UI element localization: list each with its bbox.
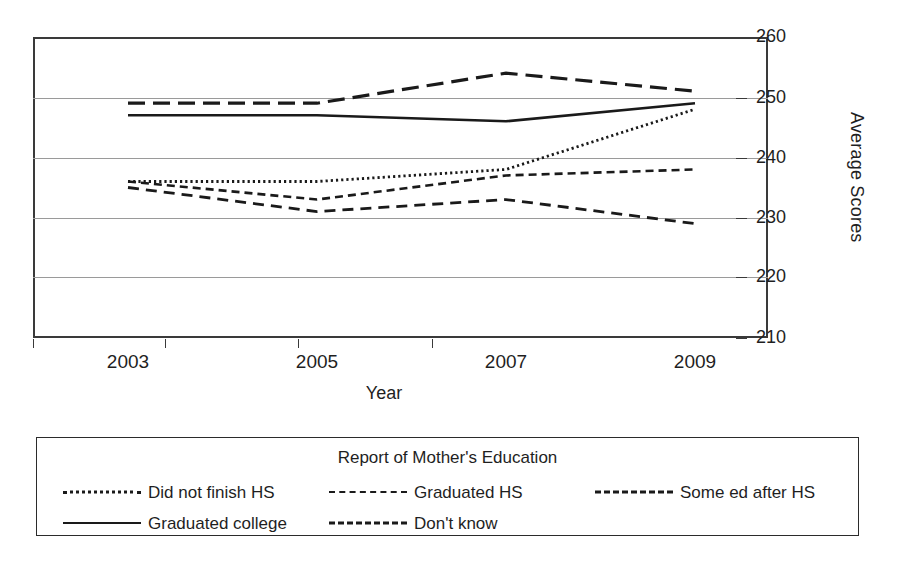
legend-item-did-not-finish-hs[interactable]: Did not finish HS xyxy=(63,479,275,505)
legend-item-graduated-college[interactable]: Graduated college xyxy=(63,510,287,536)
gridline-230 xyxy=(33,218,768,219)
legend-title: Report of Mother's Education xyxy=(37,448,858,468)
y-tick-label-260: 260 xyxy=(756,27,786,45)
gridline-250 xyxy=(33,98,768,99)
plot-area xyxy=(33,37,768,338)
legend: Report of Mother's Education Did not fin… xyxy=(36,437,859,536)
y-tick-label-220: 220 xyxy=(756,267,786,285)
line-chart-figure: 260 250 240 230 220 210 Average Scores 2… xyxy=(0,0,897,562)
y-tick-label-230: 230 xyxy=(756,208,786,226)
legend-label-graduated-hs: Graduated HS xyxy=(414,483,523,502)
y-tick-230 xyxy=(736,218,747,219)
x-tick-2 xyxy=(298,339,299,348)
gridline-240 xyxy=(33,158,768,159)
legend-row-1: Did not finish HS Graduated HS Some ed a… xyxy=(37,479,858,505)
x-tick-1 xyxy=(165,339,166,348)
legend-label-graduated-college: Graduated college xyxy=(148,514,287,533)
legend-label-did-not-finish-hs: Did not finish HS xyxy=(148,483,275,502)
legend-swatch-dashed-medium xyxy=(329,517,407,529)
legend-item-graduated-hs[interactable]: Graduated HS xyxy=(329,479,523,505)
legend-item-some-ed-after-hs[interactable]: Some ed after HS xyxy=(595,479,815,505)
y-tick-260 xyxy=(736,37,747,38)
y-tick-250 xyxy=(736,98,747,99)
x-tick-0 xyxy=(33,339,34,348)
x-tick-label-2009: 2009 xyxy=(650,352,740,372)
y-axis-title: Average Scores xyxy=(846,112,867,243)
legend-swatch-solid xyxy=(63,517,141,529)
y-tick-label-240: 240 xyxy=(756,148,786,166)
y-tick-label-210: 210 xyxy=(756,328,786,346)
legend-swatch-dashed-large xyxy=(595,486,673,498)
legend-label-dont-know: Don't know xyxy=(414,514,498,533)
legend-row-2: Graduated college Don't know xyxy=(37,510,858,536)
x-tick-label-2005: 2005 xyxy=(272,352,362,372)
y-tick-label-250: 250 xyxy=(756,88,786,106)
legend-item-dont-know[interactable]: Don't know xyxy=(329,510,498,536)
y-tick-220 xyxy=(736,277,747,278)
legend-swatch-dashed-small xyxy=(329,486,407,498)
x-axis-title: Year xyxy=(0,383,768,404)
x-tick-label-2003: 2003 xyxy=(83,352,173,372)
x-tick-label-2007: 2007 xyxy=(461,352,551,372)
legend-label-some-ed-after-hs: Some ed after HS xyxy=(680,483,815,502)
legend-swatch-dotted xyxy=(63,486,141,498)
y-tick-240 xyxy=(736,158,747,159)
y-tick-210 xyxy=(736,338,747,339)
x-tick-3 xyxy=(432,339,433,348)
gridline-220 xyxy=(33,277,768,278)
plot-frame xyxy=(33,37,768,338)
